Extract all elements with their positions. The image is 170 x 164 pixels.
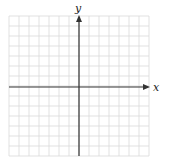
coordinate-plane: x y xyxy=(0,0,170,164)
y-axis-label: y xyxy=(74,2,82,15)
x-axis-label: x xyxy=(153,81,160,94)
